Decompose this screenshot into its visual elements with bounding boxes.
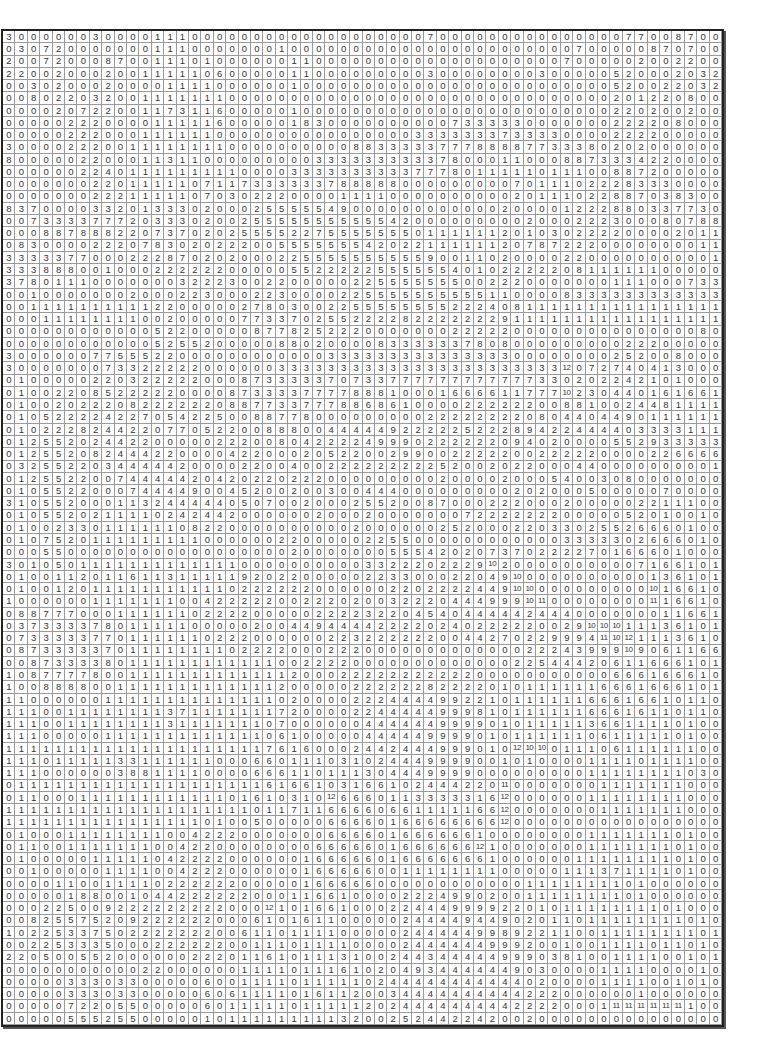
grid-cell: 2 [561, 448, 573, 460]
grid-cell: 2 [115, 240, 127, 252]
grid-cell: 1 [685, 571, 697, 583]
grid-cell: 1 [251, 939, 263, 951]
grid-cell: 0 [462, 645, 474, 657]
grid-cell: 8 [449, 154, 461, 166]
grid-cell: 10 [511, 583, 523, 595]
grid-cell: 0 [685, 375, 697, 387]
grid-cell: 1 [301, 902, 313, 914]
grid-cell: 2 [226, 424, 238, 436]
grid-cell: 0 [251, 559, 263, 571]
grid-cell: 6 [660, 657, 672, 669]
grid-cell: 2 [338, 448, 350, 460]
grid-cell: 4 [474, 583, 486, 595]
grid-cell: 2 [412, 313, 424, 325]
grid-cell: 0 [375, 915, 387, 927]
grid-cell: 0 [301, 485, 313, 497]
grid-cell: 2 [239, 632, 251, 644]
grid-cell: 0 [239, 80, 251, 92]
grid-cell: 0 [586, 92, 598, 104]
grid-cell: 4 [387, 767, 399, 779]
grid-cell: 2 [239, 583, 251, 595]
grid-cell: 0 [3, 890, 15, 902]
grid-cell: 0 [548, 792, 560, 804]
grid-cell: 0 [15, 927, 27, 939]
grid-cell: 3 [412, 792, 424, 804]
grid-cell: 0 [474, 178, 486, 190]
grid-cell: 0 [313, 92, 325, 104]
grid-cell: 0 [325, 534, 337, 546]
grid-cell: 2 [424, 424, 436, 436]
grid-cell: 1 [201, 166, 213, 178]
grid-cell: 8 [474, 141, 486, 153]
grid-cell: 1 [561, 203, 573, 215]
grid-cell: 8 [40, 681, 52, 693]
grid-cell: 6 [685, 632, 697, 644]
grid-cell: 1 [152, 694, 164, 706]
grid-cell: 5 [424, 608, 436, 620]
grid-cell: 3 [697, 276, 709, 288]
grid-cell: 8 [375, 338, 387, 350]
grid-cell: 1 [115, 313, 127, 325]
grid-cell: 1 [548, 706, 560, 718]
grid-cell: 0 [437, 203, 449, 215]
grid-cell: 0 [127, 117, 139, 129]
grid-cell: 0 [214, 988, 226, 1000]
grid-cell: 1 [226, 1013, 238, 1025]
grid-cell: 3 [3, 350, 15, 362]
grid-cell: 0 [127, 951, 139, 963]
grid-cell: 1 [239, 951, 251, 963]
grid-cell: 0 [115, 252, 127, 264]
grid-cell: 0 [449, 203, 461, 215]
grid-cell: 0 [226, 522, 238, 534]
grid-cell: 7 [486, 546, 498, 558]
grid-cell: 6 [672, 595, 684, 607]
grid-cell: 1 [697, 227, 709, 239]
grid-cell: 0 [511, 755, 523, 767]
grid-cell: 0 [660, 117, 672, 129]
grid-cell: 4 [449, 939, 461, 951]
grid-cell: 0 [536, 792, 548, 804]
grid-cell: 0 [449, 608, 461, 620]
grid-cell: 4 [400, 694, 412, 706]
grid-cell: 6 [325, 853, 337, 865]
grid-cell: 1 [152, 191, 164, 203]
grid-cell: 1 [164, 595, 176, 607]
grid-cell: 0 [561, 436, 573, 448]
grid-cell: 2 [548, 436, 560, 448]
grid-cell: 0 [437, 510, 449, 522]
grid-cell: 1 [201, 718, 213, 730]
grid-cell: 9 [511, 436, 523, 448]
grid-cell: 2 [660, 154, 672, 166]
grid-cell: 3 [263, 313, 275, 325]
grid-cell: 1 [635, 829, 647, 841]
grid-cell: 1 [28, 301, 40, 313]
grid-cell: 1 [561, 890, 573, 902]
grid-cell: 1 [486, 706, 498, 718]
grid-cell: 1 [164, 191, 176, 203]
grid-cell: 0 [697, 853, 709, 865]
grid-cell: 1 [90, 559, 102, 571]
grid-cell: 0 [586, 939, 598, 951]
grid-cell: 1 [115, 583, 127, 595]
grid-cell: 2 [387, 902, 399, 914]
grid-cell: 8 [28, 608, 40, 620]
grid-cell: 2 [65, 497, 77, 509]
grid-cell: 0 [387, 865, 399, 877]
grid-cell: 1 [338, 767, 350, 779]
grid-cell: 6 [375, 780, 387, 792]
grid-cell: 1 [102, 743, 114, 755]
grid-cell: 2 [115, 191, 127, 203]
grid-cell: 4 [164, 853, 176, 865]
grid-cell: 4 [449, 915, 461, 927]
grid-cell: 4 [486, 583, 498, 595]
grid-cell: 1 [127, 191, 139, 203]
grid-cell: 0 [710, 1000, 722, 1012]
grid-cell: 0 [189, 387, 201, 399]
grid-cell: 7 [610, 865, 622, 877]
grid-cell: 1 [152, 56, 164, 68]
grid-cell: 1 [28, 730, 40, 742]
grid-cell: 8 [623, 191, 635, 203]
grid-cell: 9 [449, 694, 461, 706]
grid-cell: 6 [313, 878, 325, 890]
grid-cell: 0 [486, 485, 498, 497]
